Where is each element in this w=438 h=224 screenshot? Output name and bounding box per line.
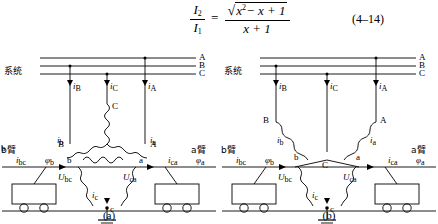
feeder-current-b-ib: ib [277, 135, 284, 147]
system-label-b: 系统 [224, 64, 242, 77]
circuit-diagram-b [220, 44, 438, 224]
lead-to-a [327, 160, 359, 167]
equals-sign: = [208, 10, 221, 25]
bus-tap-A [375, 57, 378, 60]
winding-label-a-C: C [112, 101, 118, 111]
locomotive-left-body [232, 184, 276, 204]
load-current-a-ibc: ibc [16, 155, 26, 167]
bus-tap-B [69, 65, 72, 68]
feeder-current-b-ic: ic [312, 190, 318, 202]
radical-sign: √ [228, 2, 236, 20]
winding-coil-bc [78, 167, 93, 206]
equation-expression: I2 I1 = √x2− x + 1 x + 1 [150, 2, 330, 37]
figure-caption-b: (b) [309, 209, 349, 221]
phase-angle-a-b: φb [45, 155, 54, 167]
winding-coil-B [67, 144, 107, 158]
current-label-a-iA: iA [148, 81, 156, 93]
pantograph-right [165, 167, 177, 184]
node-label-a-a: a [139, 155, 143, 165]
locomotive-right-body [375, 184, 419, 204]
figure-page: I2 I1 = √x2− x + 1 x + 1 (4–14) [0, 0, 438, 224]
circuit-diagram-a [0, 44, 218, 224]
voltage-label-a-Ubc: Ubc [58, 172, 72, 184]
phase-angle-b-b: φb [265, 155, 274, 167]
load-current-a-ica: ica [168, 155, 178, 167]
locomotive-right-body [155, 184, 199, 204]
square-root-group: √x2− x + 1 [228, 2, 287, 20]
bus-label-b-C: C [419, 68, 425, 78]
current-arrow-ia [367, 164, 374, 170]
winding-label-b-B: B [263, 115, 269, 125]
node-label-a-b: b [67, 155, 72, 165]
locomotive-left-body [12, 184, 56, 204]
pantograph-left [254, 167, 266, 184]
feeder-current-a-ia: ia [150, 135, 156, 147]
current-label-b-iA: iA [379, 81, 387, 93]
rhs-denominator: x + 1 [243, 21, 271, 36]
winding-coil-secondary-top [83, 157, 123, 163]
current-label-a-iC: iC [110, 81, 118, 93]
bus-tap-B [275, 65, 278, 68]
arm-label-b-left: b臂 [221, 143, 236, 156]
lhs-numerator-subscript: 2 [198, 9, 202, 18]
pantograph-right [385, 167, 397, 184]
current-arrow-ib [279, 164, 286, 170]
lhs-denominator-subscript: 1 [198, 27, 202, 36]
voltage-label-b-Ubc: Ubc [278, 172, 292, 184]
bus-tap-C [106, 73, 109, 76]
radicand-remainder: − x + 1 [246, 3, 286, 18]
phase-angle-b-a: φa [416, 155, 425, 167]
voltage-label-b-Uca: Uca [343, 172, 357, 184]
figure-caption-a: (a) [89, 209, 129, 221]
bus-tap-A [144, 57, 147, 60]
current-label-a-iB: iB [73, 81, 81, 93]
equation-block: I2 I1 = √x2− x + 1 x + 1 (4–14) [0, 0, 438, 44]
winding-coil-bc [298, 167, 313, 206]
voltage-label-a-Uca: Uca [123, 172, 137, 184]
equation-rhs: √x2− x + 1 x + 1 [225, 2, 290, 37]
pantograph-left [34, 167, 46, 184]
load-current-b-ibc: ibc [236, 155, 246, 167]
current-label-b-iB: iB [279, 81, 287, 93]
winding-label-b-C: C [322, 160, 328, 170]
equation-number: (4–14) [352, 12, 384, 27]
bus-label-a-C: C [199, 68, 205, 78]
system-label-a: 系统 [4, 64, 22, 77]
bus-tap-C [326, 73, 329, 76]
phase-angle-a-a: φa [196, 155, 205, 167]
current-arrow-ib [59, 164, 66, 170]
feeder-current-a-ib: ib [57, 135, 64, 147]
feeder-current-a-ic: ic [92, 190, 98, 202]
feeder-current-b-ia: ia [370, 135, 376, 147]
winding-label-b-A: A [380, 115, 387, 125]
current-label-b-iC: iC [330, 81, 338, 93]
load-current-b-ica: ica [388, 155, 398, 167]
current-arrow-ia [147, 164, 154, 170]
winding-coil-C [105, 104, 110, 144]
node-label-b-b: b [294, 152, 299, 162]
equation-lhs: I2 I1 [190, 2, 204, 37]
arm-label-a-left: b臂 [1, 143, 16, 156]
node-label-b-a: a [356, 152, 360, 162]
